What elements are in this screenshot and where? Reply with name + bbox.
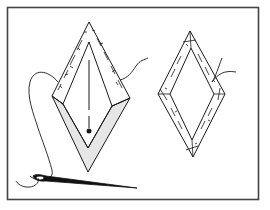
left-diamond	[52, 22, 130, 172]
paper-piecing-illustration	[0, 0, 270, 210]
needle-eye	[37, 177, 44, 180]
fabric-band-upper	[52, 22, 130, 106]
paper-template-lower	[52, 96, 130, 172]
right-diamond	[158, 31, 225, 157]
frame-border	[8, 8, 259, 200]
needle-icon	[33, 175, 137, 189]
thread-left	[29, 72, 58, 180]
center-dot	[87, 129, 92, 134]
thread-right	[120, 58, 148, 80]
